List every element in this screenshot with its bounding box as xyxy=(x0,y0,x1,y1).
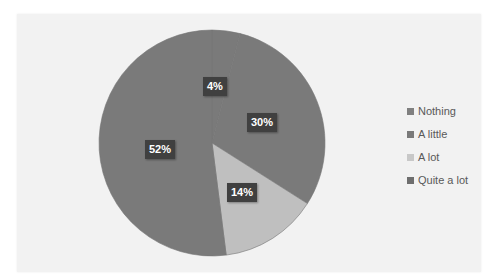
data-label-quite-a-lot: 52% xyxy=(145,140,175,159)
legend-swatch-icon xyxy=(407,154,414,161)
legend-label: Quite a lot xyxy=(418,174,468,186)
legend-swatch-icon xyxy=(407,108,414,115)
legend-swatch-icon xyxy=(407,131,414,138)
legend-item-a-lot: A lot xyxy=(407,150,468,164)
data-label-a-lot: 14% xyxy=(227,183,257,202)
legend-label: A little xyxy=(418,128,447,140)
legend-label: A lot xyxy=(418,151,439,163)
legend-item-a-little: A little xyxy=(407,127,468,141)
legend-swatch-icon xyxy=(407,177,414,184)
data-label-a-little: 30% xyxy=(247,113,277,132)
legend-label: Nothing xyxy=(418,105,456,117)
chart-legend: Nothing A little A lot Quite a lot xyxy=(407,104,468,187)
legend-item-nothing: Nothing xyxy=(407,104,468,118)
data-label-nothing: 4% xyxy=(203,77,227,96)
legend-item-quite-a-lot: Quite a lot xyxy=(407,173,468,187)
